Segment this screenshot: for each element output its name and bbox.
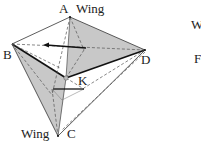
vertex-A — [69, 16, 71, 18]
label-B: B — [3, 48, 12, 61]
label-A: A — [59, 2, 68, 15]
thin-line-center-K — [62, 89, 84, 100]
label-D: D — [141, 53, 150, 66]
vertex-D — [144, 49, 146, 51]
center-node — [64, 76, 68, 80]
arrowhead-upper — [43, 43, 49, 48]
edge-A-B — [12, 17, 70, 44]
label-wing-bottom: Wing — [21, 127, 49, 140]
label-right-cut-1: W — [191, 18, 201, 31]
label-C: C — [67, 127, 76, 140]
label-right-cut-2: F — [194, 52, 201, 65]
label-K: K — [78, 74, 87, 87]
vertex-C — [57, 135, 59, 137]
tetrahedron-wing-diagram — [0, 0, 201, 142]
label-wing-top: Wing — [76, 2, 104, 15]
